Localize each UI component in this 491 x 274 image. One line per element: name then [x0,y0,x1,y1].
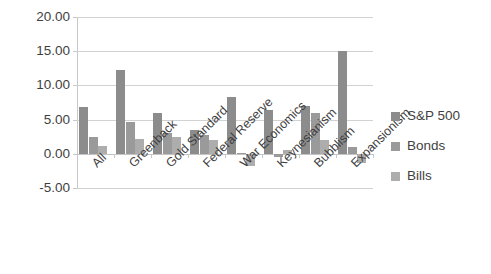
legend-item[interactable]: Bills [391,161,487,191]
y-axis-tick-labels: 20.0015.0010.005.000.00-5.00 [0,0,70,274]
y-tick-label: 10.00 [36,78,70,92]
y-tick-label: 5.00 [44,113,70,127]
legend-item[interactable]: S&P 500 [391,101,487,131]
bar-s-p-500 [79,107,88,154]
y-tick-label: 0.00 [44,147,70,161]
gridline--5.00 [77,188,373,189]
y-tick-label: -5.00 [39,181,70,195]
legend-item[interactable]: Bonds [391,131,487,161]
y-tick-mark [73,188,77,189]
legend-label: Bonds [407,139,445,153]
legend-label: S&P 500 [407,109,460,123]
legend-swatch-icon [391,172,400,181]
y-tick-label: 20.00 [36,10,70,24]
x-tick-mark [114,154,115,158]
y-tick-label: 15.00 [36,44,70,58]
chart-legend: S&P 500BondsBills [391,101,487,191]
legend-swatch-icon [391,142,400,151]
bar-bonds [126,122,135,154]
legend-label: Bills [407,169,432,183]
legend-swatch-icon [391,112,400,121]
bar-s-p-500 [116,70,125,153]
bar-chart: 20.0015.0010.005.000.00-5.00 AllGreenbac… [0,0,491,274]
